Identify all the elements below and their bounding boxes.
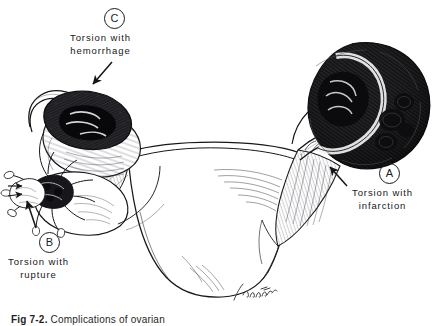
callout-a: Torsion with infarction bbox=[352, 187, 413, 212]
figure-container: A Torsion with infarction B Torsion with… bbox=[0, 0, 440, 326]
callout-c-line2: hemorrhage bbox=[70, 45, 131, 58]
marker-c: C bbox=[104, 8, 125, 29]
arrow-c bbox=[93, 62, 112, 84]
marker-b: B bbox=[39, 232, 60, 253]
callout-b-line1: Torsion with bbox=[8, 256, 69, 269]
figure-number: Fig 7-2. bbox=[11, 314, 48, 325]
uterus bbox=[128, 142, 300, 297]
callout-b: Torsion with rupture bbox=[8, 256, 69, 281]
callout-b-line2: rupture bbox=[8, 269, 69, 282]
callout-a-line2: infarction bbox=[352, 200, 413, 213]
callout-c-line1: Torsion with bbox=[70, 32, 131, 45]
figure-caption: Fig 7-2. Complications of ovarian bbox=[11, 314, 165, 325]
marker-a: A bbox=[379, 163, 400, 184]
artist-signature bbox=[231, 283, 285, 303]
figure-caption-text: Complications of ovarian bbox=[51, 314, 165, 325]
callout-a-line1: Torsion with bbox=[352, 187, 413, 200]
callout-c: Torsion with hemorrhage bbox=[70, 32, 131, 57]
